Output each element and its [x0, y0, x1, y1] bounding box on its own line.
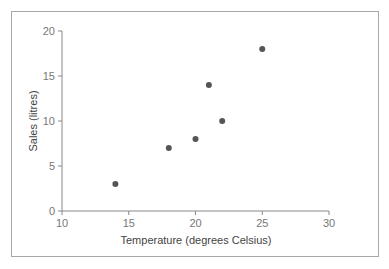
y-tick-label: 0 [49, 205, 55, 217]
data-point [219, 118, 225, 124]
y-tick-label: 10 [43, 115, 55, 127]
data-point [166, 145, 172, 151]
axes: 101520253005101520 [43, 25, 335, 229]
data-point [112, 181, 118, 187]
x-tick-label: 30 [323, 217, 335, 229]
x-tick-label: 15 [123, 217, 135, 229]
data-point [193, 136, 199, 142]
x-tick-label: 20 [189, 217, 201, 229]
x-tick-label: 25 [256, 217, 268, 229]
x-axis-title: Temperature (degrees Celsius) [120, 234, 271, 246]
y-axis-title: Sales (litres) [27, 90, 39, 151]
data-points [112, 46, 265, 187]
y-tick-label: 15 [43, 70, 55, 82]
data-point [259, 46, 265, 52]
data-point [206, 82, 212, 88]
x-tick-label: 10 [56, 217, 68, 229]
y-tick-label: 5 [49, 160, 55, 172]
y-tick-label: 20 [43, 25, 55, 37]
scatter-chart: 101520253005101520 Temperature (degrees … [0, 0, 389, 269]
